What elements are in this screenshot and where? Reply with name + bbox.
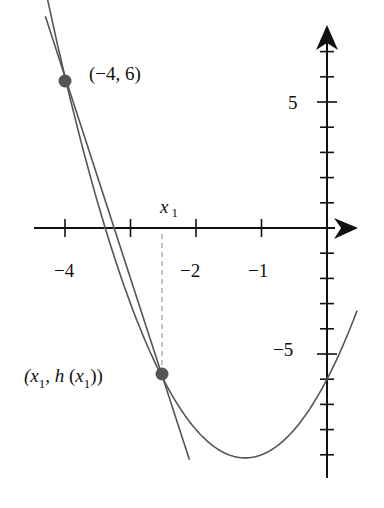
y-tick-label-5: 5	[288, 92, 298, 113]
function-graph: (−4, 6) (x1, h (x1)) x1 −4 −2 −1 5 −5	[0, 0, 384, 508]
x1-label: x1	[159, 196, 178, 220]
x1-label-main: x	[159, 196, 169, 217]
x-tick-label-neg4: −4	[54, 260, 75, 281]
x-axis-arrow-icon	[334, 218, 358, 239]
x-tick-label-neg2: −2	[180, 260, 200, 281]
x-axis	[34, 218, 358, 239]
label-part: ))	[90, 365, 103, 387]
y-axis	[316, 25, 338, 478]
label-part: ,	[45, 365, 55, 386]
y-tick-label-neg5: −5	[273, 339, 293, 360]
point-label-neg4-6: (−4, 6)	[89, 63, 141, 85]
x-tick-label-neg1: −1	[248, 260, 268, 281]
label-part: h	[55, 365, 65, 386]
point-label-x1-hx1: (x1, h (x1))	[24, 365, 103, 391]
point-neg4-6	[59, 75, 72, 88]
label-part: (	[64, 365, 75, 387]
point-x1-hx1	[156, 368, 169, 381]
x1-label-sub: 1	[171, 205, 178, 220]
